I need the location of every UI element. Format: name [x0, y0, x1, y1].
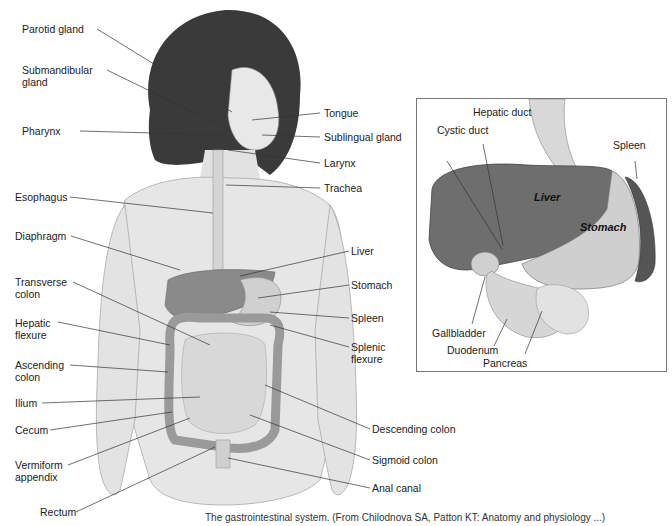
label-sigmoid-colon: Sigmoid colon — [372, 454, 438, 466]
label-liver: Liver — [351, 245, 374, 257]
label-ascending-colon: Ascending colon — [15, 359, 80, 383]
inset-label-hepatic-duct: Hepatic duct — [473, 106, 531, 118]
label-rectum: Rectum — [40, 506, 76, 518]
label-hepatic-flexure: Hepatic flexure — [15, 317, 65, 341]
label-vermiform-appendix: Vermiform appendix — [15, 459, 80, 483]
inset-label-gallbladder: Gallbladder — [432, 327, 486, 339]
inset-label-spleen: Spleen — [613, 139, 646, 151]
label-submandibular-gland: Submandibular gland — [22, 64, 107, 88]
inset-label-duodenum: Duodenum — [447, 344, 498, 356]
label-ilium: Ilium — [15, 397, 37, 409]
inset-organ-stomach: Stomach — [580, 221, 626, 233]
label-transverse-colon: Transverse colon — [15, 276, 80, 300]
inset-label-pancreas: Pancreas — [483, 357, 527, 369]
label-descending-colon: Descending colon — [372, 423, 455, 435]
label-larynx: Larynx — [324, 157, 356, 169]
label-parotid-gland: Parotid gland — [22, 23, 84, 35]
label-trachea: Trachea — [324, 182, 362, 194]
inset-organ-liver: Liver — [534, 191, 560, 203]
label-stomach: Stomach — [351, 279, 392, 291]
label-pharynx: Pharynx — [22, 125, 61, 137]
label-anal-canal: Anal canal — [372, 482, 421, 494]
figure-caption: The gastrointestinal system. (From Chilo… — [205, 512, 605, 523]
label-spleen: Spleen — [351, 312, 384, 324]
inset-box: Cystic duct Hepatic duct Spleen Gallblad… — [416, 98, 667, 372]
label-diaphragm: Diaphragm — [15, 230, 66, 242]
inset-label-cystic-duct: Cystic duct — [437, 124, 488, 136]
label-splenic-flexure: Splenic flexure — [351, 341, 401, 365]
label-sublingual-gland: Sublingual gland — [324, 131, 402, 143]
label-tongue: Tongue — [324, 107, 358, 119]
label-cecum: Cecum — [15, 424, 48, 436]
label-esophagus: Esophagus — [15, 191, 68, 203]
